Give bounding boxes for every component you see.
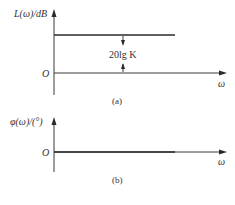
annotation-20lgK: 20lg K <box>109 49 137 60</box>
panel-a-y-axis-arrow-icon <box>52 9 57 17</box>
panel-b-y-label: φ(ω)/(°) <box>10 116 43 128</box>
dimension-arrow-down-icon <box>121 40 125 46</box>
panel-a-x-label: ω <box>218 78 225 89</box>
panel-a-caption: (a) <box>112 96 122 106</box>
panel-b-caption: (b) <box>112 175 123 185</box>
panel-b-y-axis-arrow-icon <box>52 117 57 125</box>
bode-diagram: L(ω)/dB O ω 20lg K (a) φ(ω)/(°) O ω (b) <box>0 0 235 205</box>
panel-a-origin-label: O <box>42 68 49 79</box>
panel-a-magnitude-plot: L(ω)/dB O ω 20lg K (a) <box>13 8 227 106</box>
panel-b-x-label: ω <box>218 156 225 167</box>
panel-b-phase-plot: φ(ω)/(°) O ω (b) <box>10 116 227 185</box>
panel-b-origin-label: O <box>42 147 49 158</box>
panel-a-y-label: L(ω)/dB <box>13 8 47 20</box>
dimension-arrow-up-icon <box>121 63 125 69</box>
panel-b-x-axis-arrow-icon <box>219 150 227 155</box>
panel-a-x-axis-arrow-icon <box>219 71 227 76</box>
